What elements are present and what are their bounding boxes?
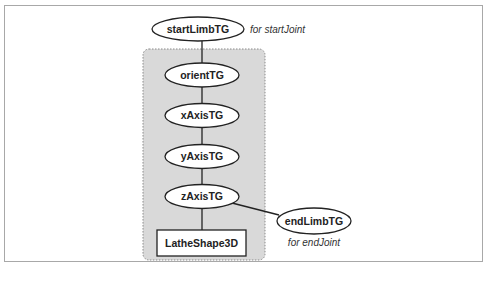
node-zAxisTG: zAxisTG (165, 185, 239, 209)
node-label: xAxisTG (181, 109, 224, 121)
node-label: zAxisTG (181, 190, 223, 202)
node-label: LatheShape3D (165, 237, 238, 249)
node-yAxisTG: yAxisTG (165, 145, 239, 169)
node-xAxisTG: xAxisTG (165, 104, 239, 128)
node-endLimbTG: endLimbTG (277, 208, 351, 234)
annotation-end-joint: for endJoint (288, 237, 341, 248)
node-startLimbTG: startLimbTG (152, 17, 244, 41)
node-label: startLimbTG (167, 23, 229, 35)
node-label: yAxisTG (181, 150, 224, 162)
annotation-start-joint: for startJoint (250, 24, 306, 35)
node-label: endLimbTG (285, 215, 343, 227)
scene-graph-diagram: startLimbTG for startJoint orientTG xAxi… (0, 0, 492, 286)
node-orientTG: orientTG (165, 63, 239, 87)
node-label: orientTG (180, 69, 224, 81)
node-LatheShape3D: LatheShape3D (157, 230, 246, 256)
